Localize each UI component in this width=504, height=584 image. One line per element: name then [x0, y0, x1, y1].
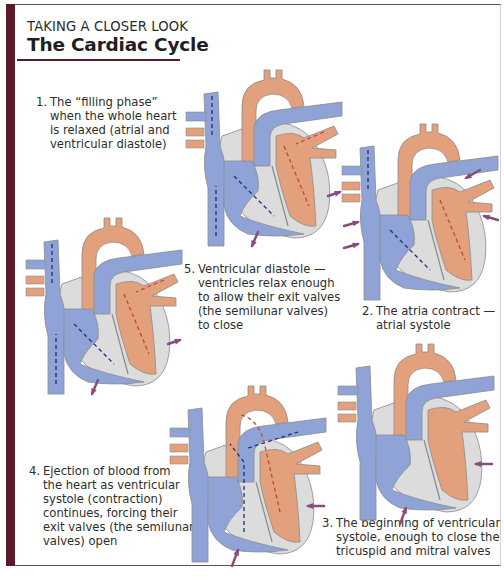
pulmonary-vein — [170, 444, 188, 452]
section-kicker: TAKING A CLOSER LOOK — [27, 19, 188, 34]
stage-5-caption: 5. Ventricular diastole — ventricles rel… — [184, 262, 340, 332]
heart-svg — [168, 382, 328, 567]
stage-line: systole, enough to close the — [322, 530, 500, 544]
stage-line: (the semilunar valves) — [184, 304, 340, 318]
stage-number: 5. — [184, 262, 195, 276]
stage-number: 4. — [29, 464, 40, 478]
pulmonary-branch — [342, 166, 362, 175]
pulmonary-vein — [342, 194, 360, 202]
heart-svg — [24, 214, 184, 399]
stage-line: atrial systole — [362, 318, 495, 332]
vena-cava — [188, 408, 209, 562]
contraction-arrow — [344, 243, 360, 249]
contraction-arrow — [482, 215, 498, 221]
stage-line: Ventricular diastole — — [184, 262, 340, 276]
stage-line: tricuspid and mitral valves — [322, 544, 500, 558]
heart-diagram-early-ventricular-systole — [336, 340, 496, 525]
stage-line: to close — [184, 318, 340, 332]
vena-cava — [356, 366, 377, 520]
pulmonary-vein — [26, 288, 44, 296]
heart-diagram-atrial-systole — [340, 120, 500, 305]
stage-number: 1. — [36, 95, 47, 109]
pulmonary-branch — [186, 112, 206, 121]
contraction-arrow — [344, 221, 360, 227]
stage-line: to allow their exit valves — [184, 290, 340, 304]
page-title: The Cardiac Cycle — [27, 34, 209, 55]
stage-line: is relaxed (atrial and — [36, 123, 177, 137]
stage-line: ventricles relax enough — [184, 276, 340, 290]
pulmonary-vein — [338, 414, 356, 422]
heart-diagram-ejection — [168, 382, 328, 567]
accent-sidebar-bar — [6, 4, 15, 566]
pulmonary-vein — [342, 182, 360, 190]
pulmonary-vein — [26, 276, 44, 284]
pulmonary-vein — [186, 128, 204, 136]
pulmonary-branch — [26, 260, 46, 269]
pulmonary-branch — [338, 386, 358, 395]
heart-diagram-ventricular-diastole — [24, 214, 184, 399]
pulmonary-vein — [170, 456, 188, 464]
heart-svg — [184, 66, 344, 251]
stage-line: The atria contract — — [362, 304, 495, 318]
heart-svg — [336, 340, 496, 525]
pulmonary-branch — [170, 428, 190, 437]
vena-cava — [44, 240, 65, 394]
vena-cava — [204, 92, 225, 246]
heart-diagram-filling-phase — [184, 66, 344, 251]
vena-cava — [360, 146, 381, 300]
stage-line: ventricular diastole) — [36, 137, 177, 151]
stage-number: 2. — [362, 304, 373, 318]
heart-svg — [340, 120, 500, 305]
pulmonary-vein — [186, 140, 204, 148]
pulmonary-vein — [338, 402, 356, 410]
stage-1-caption: 1. The “filling phase” when the whole he… — [36, 95, 177, 151]
stage-2-caption: 2. The atria contract — atrial systole — [362, 304, 495, 332]
title-underline — [17, 59, 180, 61]
stage-line: The “filling phase” — [36, 95, 177, 109]
stage-line: when the whole heart — [36, 109, 177, 123]
